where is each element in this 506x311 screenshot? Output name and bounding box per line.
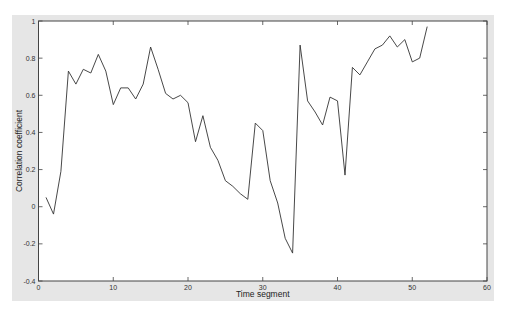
y-tick-label: 0.2 xyxy=(26,166,36,173)
plot-area xyxy=(39,21,488,281)
figure: 0102030405060 -0.4-0.200.20.40.60.81 Tim… xyxy=(0,0,506,311)
x-tick-label: 0 xyxy=(37,284,41,291)
x-tick-label: 60 xyxy=(483,284,491,291)
y-tick-label: 0.4 xyxy=(26,129,36,136)
y-tick-label: 0.6 xyxy=(26,92,36,99)
x-tick-label: 20 xyxy=(184,284,192,291)
x-tick-label: 40 xyxy=(334,284,342,291)
y-tick-label: -0.2 xyxy=(23,240,35,247)
y-tick-label: -0.4 xyxy=(23,278,35,285)
y-tick-label: 0.8 xyxy=(26,55,36,62)
x-tick-label: 50 xyxy=(408,284,416,291)
y-axis-label: Correlation coefficient xyxy=(14,109,24,192)
x-axis-label: Time segment xyxy=(236,289,290,299)
y-tick-label: 1 xyxy=(32,18,36,25)
y-tick-label: 0 xyxy=(32,203,36,210)
x-tick-label: 10 xyxy=(109,284,117,291)
